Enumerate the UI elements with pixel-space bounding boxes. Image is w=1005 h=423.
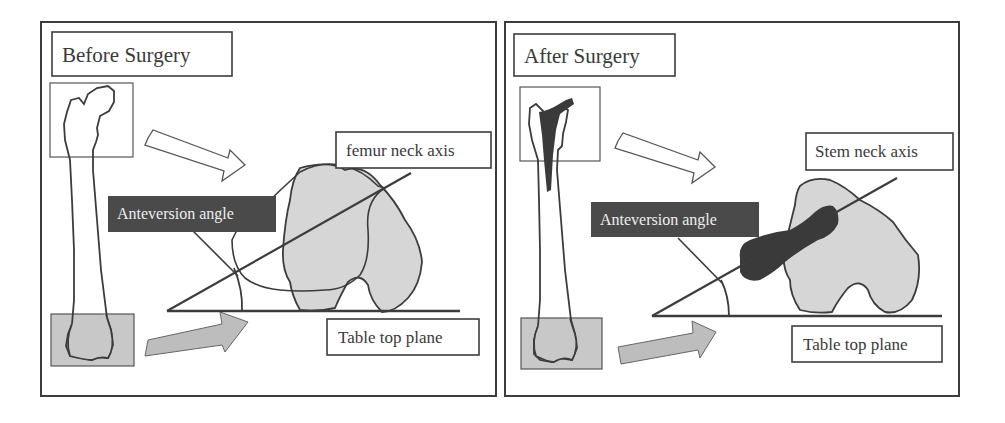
figure-anteversion-diagram: Before Surgery Anteversion angle femur n… <box>0 0 1005 423</box>
panel-title: Before Surgery <box>62 43 191 67</box>
neck-axis-label: Stem neck axis <box>815 142 918 161</box>
panel-title: After Surgery <box>524 44 640 68</box>
panel-after-surgery: After Surgery Anteversion angle Stem nec… <box>505 22 959 396</box>
table-plane-label: Table top plane <box>803 335 908 354</box>
anteversion-label: Anteversion angle <box>117 205 234 223</box>
table-plane-label: Table top plane <box>338 328 443 347</box>
neck-axis-label: femur neck axis <box>346 141 455 160</box>
panel-before-surgery: Before Surgery Anteversion angle femur n… <box>41 22 496 396</box>
anteversion-label: Anteversion angle <box>600 211 717 229</box>
